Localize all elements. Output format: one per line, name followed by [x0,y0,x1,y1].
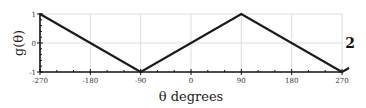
x-tick-label: -180 [82,77,98,85]
x-axis-label: θ degrees [159,89,224,104]
x-tick-label: 270 [335,77,348,85]
y-tick-label: 1 [32,11,36,19]
y-tick-label: -1 [29,69,36,77]
y-tick-label: 0 [32,40,36,48]
chart: -270-180-90090180270-101 θ degrees g(θ) … [0,0,366,108]
x-tick-label: -90 [135,77,146,85]
y-axis-label: g(θ) [11,30,26,56]
x-tick-label: 90 [237,77,246,85]
x-tick-label: 180 [285,77,298,85]
x-tick-label: 0 [189,77,193,85]
panel-label: 2 [345,35,355,51]
x-tick-label: -270 [32,77,48,85]
